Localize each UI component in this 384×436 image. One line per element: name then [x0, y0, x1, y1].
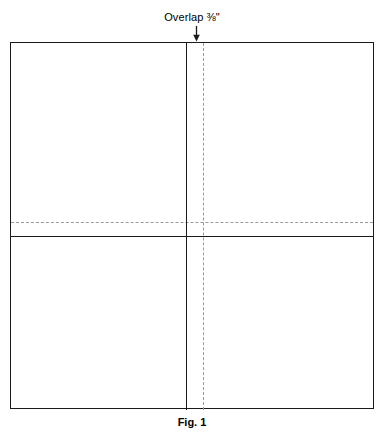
- fold-line-vertical: [186, 43, 187, 410]
- overlap-line-vertical: [203, 43, 204, 410]
- fold-line-horizontal: [11, 236, 373, 237]
- overlap-callout-label: Overlap ⅜": [0, 11, 384, 23]
- figure-container: Overlap ⅜" Fig. 1: [0, 0, 384, 436]
- overlap-line-horizontal: [11, 222, 373, 223]
- sheet-outline: [10, 42, 374, 409]
- arrow-down-icon: [192, 26, 201, 42]
- figure-caption: Fig. 1: [0, 416, 384, 428]
